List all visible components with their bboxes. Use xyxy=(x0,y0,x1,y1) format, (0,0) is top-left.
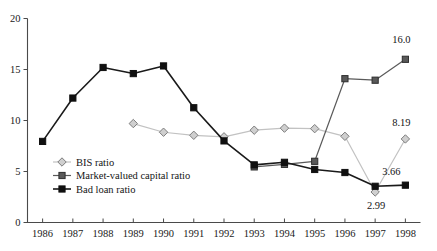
legend-label: BIS ratio xyxy=(76,157,114,168)
data-point-marker xyxy=(70,95,76,101)
data-point-marker xyxy=(250,126,258,134)
legend-item-market-valued-capital-ratio: Market-valued capital ratio xyxy=(53,170,190,181)
x-tick-label: 1996 xyxy=(334,228,355,239)
data-point-marker xyxy=(159,128,167,136)
data-point-marker xyxy=(401,135,409,143)
data-point-marker xyxy=(100,64,106,70)
x-tick-label: 1991 xyxy=(183,228,204,239)
data-point-marker xyxy=(341,132,349,140)
x-tick-label: 1986 xyxy=(32,228,53,239)
data-point-marker xyxy=(221,138,227,144)
x-tick-label: 1988 xyxy=(93,228,114,239)
x-tick-label: 1993 xyxy=(244,228,265,239)
legend-marker-swatch xyxy=(59,186,65,192)
data-point-label: 16.0 xyxy=(392,34,410,45)
data-point-label: 8.19 xyxy=(392,117,410,128)
data-point-marker xyxy=(129,119,137,127)
data-point-marker xyxy=(402,56,408,62)
x-tick-label: 1994 xyxy=(274,228,296,239)
data-point-marker xyxy=(312,166,318,172)
x-tick-label: 1989 xyxy=(123,228,144,239)
data-point-label: 2.99 xyxy=(367,200,385,211)
x-tick-label: 1990 xyxy=(153,228,174,239)
data-point-marker xyxy=(130,70,136,76)
data-point-marker xyxy=(280,124,288,132)
series-market-valued-capital-ratio xyxy=(251,56,408,170)
y-tick-label: 0 xyxy=(15,217,20,228)
data-point-marker xyxy=(160,63,166,69)
data-point-marker xyxy=(372,77,378,83)
legend-item-bis-ratio: BIS ratio xyxy=(53,157,114,168)
series-line xyxy=(43,66,406,186)
data-point-marker xyxy=(342,76,348,82)
y-tick-label: 5 xyxy=(15,166,20,177)
legend: BIS ratioMarket-valued capital ratioBad … xyxy=(53,157,190,195)
data-point-marker xyxy=(40,138,46,144)
y-tick-label: 15 xyxy=(10,64,21,75)
x-tick-label: 1997 xyxy=(365,228,386,239)
data-point-marker xyxy=(310,124,318,132)
data-point-marker xyxy=(191,105,197,111)
data-point-label: 3.66 xyxy=(382,166,400,177)
legend-marker-swatch xyxy=(59,172,65,178)
y-axis-ticks: 05101520 xyxy=(10,13,28,228)
data-point-marker xyxy=(342,169,348,175)
x-tick-label: 1992 xyxy=(214,228,235,239)
data-point-marker xyxy=(402,182,408,188)
legend-label: Market-valued capital ratio xyxy=(76,170,190,181)
data-point-marker xyxy=(312,158,318,164)
data-point-marker xyxy=(372,183,378,189)
y-tick-label: 20 xyxy=(10,13,21,24)
x-tick-label: 1998 xyxy=(395,228,416,239)
chart-canvas: 05101520 1986198719881989199019911992199… xyxy=(0,0,437,251)
series-line xyxy=(254,59,405,167)
x-tick-label: 1995 xyxy=(304,228,325,239)
data-point-marker xyxy=(251,162,257,168)
line-chart: 05101520 1986198719881989199019911992199… xyxy=(0,0,437,251)
data-point-marker xyxy=(281,159,287,165)
series-bis-ratio xyxy=(129,119,409,196)
y-tick-label: 10 xyxy=(10,115,21,126)
x-axis-ticks: 1986198719881989199019911992199319941995… xyxy=(32,219,416,239)
legend-item-bad-loan-ratio: Bad loan ratio xyxy=(53,184,135,195)
data-point-marker xyxy=(190,131,198,139)
legend-marker-swatch xyxy=(58,158,66,166)
x-tick-label: 1987 xyxy=(62,228,83,239)
legend-label: Bad loan ratio xyxy=(76,184,135,195)
